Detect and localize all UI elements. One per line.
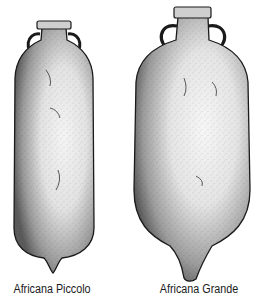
amphora-illustration: Africana Piccolo Africana Grande <box>0 0 264 305</box>
caption-africana-piccolo: Africana Piccolo <box>7 282 96 296</box>
caption-africana-grande: Africana Grande <box>148 282 249 296</box>
amphora-africana-piccolo <box>14 21 94 273</box>
amphorae-drawing <box>0 0 264 305</box>
amphora-africana-grande <box>134 7 250 281</box>
